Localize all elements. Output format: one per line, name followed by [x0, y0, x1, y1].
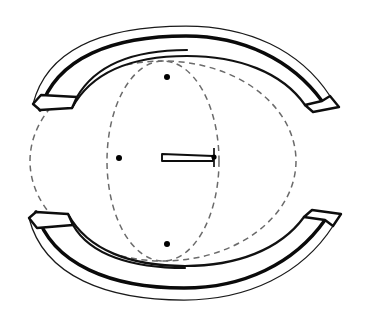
center-needle-sliver: [162, 154, 213, 161]
drawing-canvas: [0, 0, 371, 325]
node-top-intersection: [164, 74, 170, 80]
node-bottom-intersection: [164, 241, 170, 247]
node-left-axis: [116, 155, 122, 161]
upper-band-left-end-face: [33, 95, 77, 110]
node-needle-tip: [211, 154, 216, 159]
technical-drawing-svg: [0, 0, 371, 325]
lower-band-left-end-face: [29, 212, 73, 228]
